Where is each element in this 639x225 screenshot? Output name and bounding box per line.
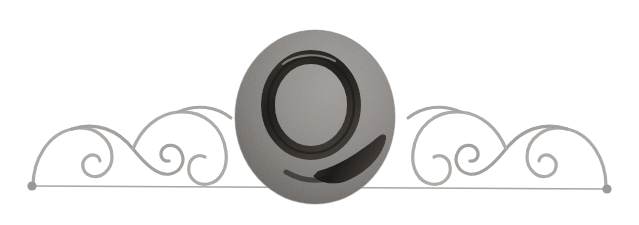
rule-terminal-dot-left	[27, 181, 36, 190]
ornament-illustration	[0, 0, 639, 225]
ornament-figure: Ornamental chapter heading: a large illu…	[0, 0, 639, 225]
rule-terminal-dot-right	[602, 184, 611, 193]
